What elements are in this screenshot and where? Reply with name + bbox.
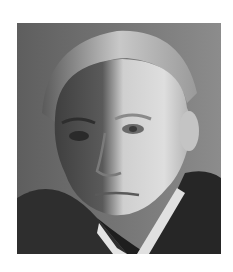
portrait-photo xyxy=(17,23,221,254)
portrait-illustration xyxy=(17,23,221,254)
